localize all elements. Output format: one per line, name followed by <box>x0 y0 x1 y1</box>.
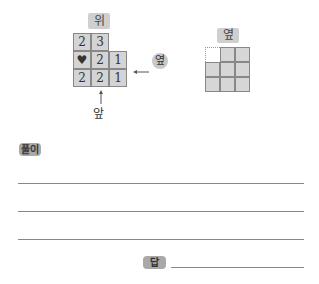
solution-label: 풀이 <box>19 143 41 156</box>
grid-cell <box>235 77 250 92</box>
heart-icon: ♥ <box>73 51 91 69</box>
grid-cell <box>220 77 235 92</box>
grid-cell: 2 <box>91 51 109 69</box>
front-view-label: 앞 <box>93 104 104 121</box>
grid-cell: 1 <box>109 69 127 87</box>
solution-line[interactable] <box>18 211 304 212</box>
answer-line[interactable] <box>171 267 304 268</box>
solution-line[interactable] <box>18 239 304 240</box>
side-view-title: 옆 <box>217 28 239 43</box>
arrow-up-icon <box>99 89 103 103</box>
grid-cell: 2 <box>73 69 91 87</box>
grid-cell: 2 <box>91 69 109 87</box>
side-view-label: 옆 <box>152 53 168 69</box>
grid-cell <box>235 47 250 62</box>
grid-cell <box>205 77 220 92</box>
grid-cell: 1 <box>109 51 127 69</box>
solution-line[interactable] <box>18 183 304 184</box>
empty-cell-outline <box>205 47 220 62</box>
grid-cell <box>220 62 235 77</box>
grid-cell: 2 <box>73 33 91 51</box>
grid-cell: 3 <box>91 33 109 51</box>
grid-cell <box>205 62 220 77</box>
answer-label: 답 <box>143 256 166 269</box>
top-view-label: 위 <box>88 13 110 29</box>
grid-cell <box>235 62 250 77</box>
grid-cell <box>220 47 235 62</box>
arrow-left-icon <box>133 59 149 61</box>
